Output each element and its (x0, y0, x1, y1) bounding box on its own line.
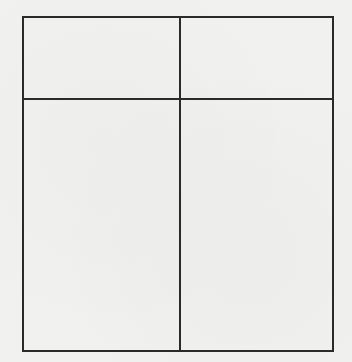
table-cell-row1-col2 (181, 18, 332, 98)
blank-table (22, 16, 334, 352)
table-cell-row2-col1 (24, 100, 179, 350)
table-cell-row1-col1 (24, 18, 179, 98)
table-cell-row2-col2 (181, 100, 332, 350)
